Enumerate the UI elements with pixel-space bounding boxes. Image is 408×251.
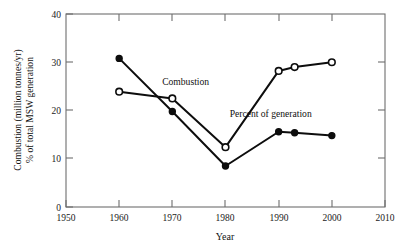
x-tick-label-2010: 2010 <box>376 213 395 223</box>
data-point <box>169 95 176 102</box>
x-tick-label-1970: 1970 <box>163 213 182 223</box>
data-point <box>223 163 229 169</box>
series-annotation-2: Percent of generation <box>230 108 312 119</box>
x-axis-ticks <box>66 200 385 207</box>
x-tick-label-1990: 1990 <box>270 213 289 223</box>
data-point <box>291 64 298 71</box>
data-point <box>116 88 123 95</box>
data-point <box>276 129 282 135</box>
y-axis-ticks-right <box>378 62 385 158</box>
data-point <box>329 59 336 66</box>
y-axis-ticks <box>66 14 73 207</box>
y-axis-title-line2: % of total MSW generation <box>24 57 35 163</box>
x-axis-title: Year <box>216 231 235 242</box>
y-tick-label-30: 30 <box>52 58 62 68</box>
y-tick-label-10: 10 <box>52 154 62 164</box>
data-point <box>275 68 282 75</box>
data-point <box>329 133 335 139</box>
series-line-1 <box>119 62 332 147</box>
chart-figure: 40 30 20 10 0 1950 1960 1970 1980 1990 <box>0 0 408 251</box>
data-point <box>116 55 122 61</box>
x-tick-label-1960: 1960 <box>110 213 129 223</box>
series-annotation-1: Combustion <box>162 76 209 87</box>
series-1 <box>116 59 335 151</box>
x-tick-label-2000: 2000 <box>323 213 342 223</box>
plot-frame <box>66 14 385 207</box>
data-point <box>169 108 175 114</box>
data-point <box>292 130 298 136</box>
annotation-layer: CombustionPercent of generation <box>162 76 312 119</box>
y-tick-label-40: 40 <box>52 10 62 20</box>
y-axis-title-line1: Combustion (million tonnes/yr) <box>12 49 24 171</box>
y-tick-label-20: 20 <box>52 106 62 116</box>
x-tick-label-1950: 1950 <box>57 213 76 223</box>
x-tick-label-1980: 1980 <box>216 213 235 223</box>
y-tick-label-0: 0 <box>56 203 61 213</box>
x-axis-ticks-top <box>119 14 332 21</box>
chart-svg: 40 30 20 10 0 1950 1960 1970 1980 1990 <box>0 0 408 251</box>
data-point <box>222 144 229 151</box>
